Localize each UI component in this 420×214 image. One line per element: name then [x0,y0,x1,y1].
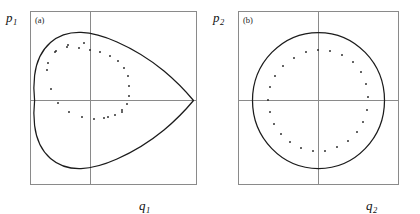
orbit-points-a [46,42,130,120]
panel-b: p2 q2 (b) [210,0,420,214]
panel-a-plot [0,0,210,214]
plot-frame-a [31,12,197,185]
panel-a: p1 q1 (a) [0,0,210,214]
panel-b-plot [210,0,420,214]
figure-container: p1 q1 (a) [0,0,420,214]
